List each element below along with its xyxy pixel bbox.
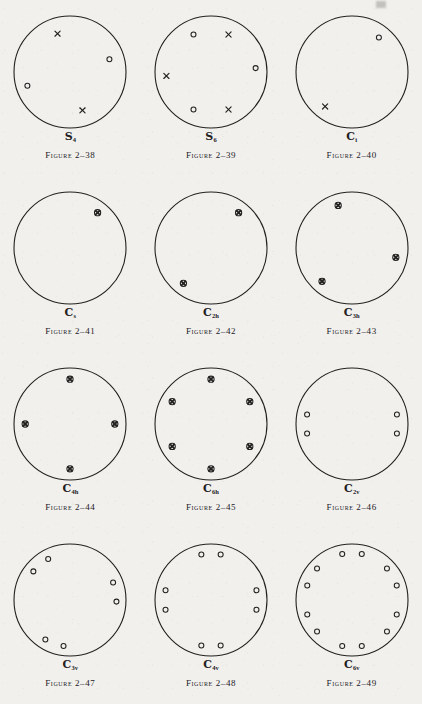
point-group-symbol-base: C: [344, 658, 353, 671]
projection-boundary-circle: [296, 544, 408, 656]
point-group-symbol-subscript: 3v: [72, 664, 79, 671]
stereogram-projection-fig-2-44: [8, 362, 132, 486]
figure-cell-fig-2-38: S4Figure 2–38: [0, 0, 141, 176]
stereogram-point-circled-cross: [95, 210, 101, 216]
stereogram-point-cross: [226, 107, 231, 112]
stereogram-point-circled-cross: [335, 202, 341, 208]
projection-boundary-circle: [14, 192, 126, 304]
point-group-symbol-subscript: i: [355, 136, 357, 143]
projection-boundary-circle: [14, 544, 126, 656]
stereogram-projection-fig-2-39: [149, 10, 273, 134]
stereogram-point-circle: [304, 412, 309, 417]
point-group-symbol-base: C: [203, 658, 212, 671]
projection-boundary-circle: [296, 192, 408, 304]
point-group-symbol-subscript: 3h: [353, 312, 360, 319]
stereogram-point-circled-cross: [112, 421, 118, 427]
projection-boundary-circle: [155, 16, 267, 128]
stereogram-projection-fig-2-49: [290, 538, 414, 662]
point-group-symbol-base: C: [203, 482, 212, 495]
point-group-symbol-subscript: 2v: [353, 488, 360, 495]
figure-cell-fig-2-40: CiFigure 2–40: [281, 0, 422, 176]
point-group-symbol-base: C: [63, 658, 72, 671]
stereogram-point-circle: [376, 35, 381, 40]
stereogram-point-circled-cross: [392, 254, 398, 260]
stereogram-figure-grid: S4Figure 2–38S6Figure 2–39CiFigure 2–40C…: [0, 0, 422, 704]
point-group-symbol-base: C: [203, 306, 212, 319]
stereogram-projection-fig-2-46: [290, 362, 414, 486]
stereogram-point-circled-cross: [67, 376, 73, 382]
stereogram-point-circled-cross: [180, 280, 186, 286]
stereogram-point-circle: [384, 566, 389, 571]
point-group-symbol: Cs: [65, 307, 77, 320]
point-group-symbol-base: C: [346, 130, 355, 143]
figure-caption: Figure 2–43: [327, 326, 377, 336]
figure-cell-fig-2-39: S6Figure 2–39: [141, 0, 282, 176]
projection-boundary-circle: [155, 544, 267, 656]
point-group-symbol-subscript: 2h: [212, 312, 219, 319]
stereogram-projection-fig-2-38: [8, 10, 132, 134]
figure-caption: Figure 2–39: [186, 150, 236, 160]
stereogram-point-circle: [254, 588, 259, 593]
point-group-symbol: S4: [65, 131, 76, 144]
stereogram-point-circle: [46, 556, 51, 561]
figure-cell-fig-2-49: C6vFigure 2–49: [281, 528, 422, 704]
point-group-symbol-base: S: [65, 130, 73, 143]
stereogram-projection-fig-2-47: [8, 538, 132, 662]
point-group-symbol: C6h: [203, 483, 219, 496]
stereogram-point-circle: [253, 66, 258, 71]
stereogram-point-cross: [226, 32, 231, 37]
point-group-symbol: C3v: [63, 659, 78, 672]
figure-cell-fig-2-43: C3hFigure 2–43: [281, 176, 422, 352]
stereogram-point-circle: [31, 569, 36, 574]
stereogram-point-circle: [254, 607, 259, 612]
point-group-symbol-subscript: 4h: [71, 488, 78, 495]
point-group-symbol-subscript: 6: [213, 136, 216, 143]
stereogram-point-circled-cross: [67, 466, 73, 472]
point-group-symbol-subscript: 6v: [353, 664, 360, 671]
stereogram-point-circle: [191, 107, 196, 112]
point-group-symbol-subscript: 6h: [212, 488, 219, 495]
figure-cell-fig-2-41: CsFigure 2–41: [0, 176, 141, 352]
stereogram-point-cross: [80, 108, 85, 113]
point-group-symbol-base: C: [344, 306, 353, 319]
stereogram-point-circle: [114, 599, 119, 604]
point-group-symbol-base: C: [344, 482, 353, 495]
stereogram-point-circle: [61, 644, 66, 649]
stereogram-point-circled-cross: [169, 443, 175, 449]
point-group-symbol: C6v: [344, 659, 359, 672]
point-group-symbol: C2v: [344, 483, 359, 496]
stereogram-point-circle: [199, 643, 204, 648]
stereogram-point-circled-cross: [235, 210, 241, 216]
figure-cell-fig-2-45: C6hFigure 2–45: [141, 352, 282, 528]
figure-caption: Figure 2–42: [186, 326, 236, 336]
stereogram-point-circled-cross: [247, 399, 253, 405]
stereogram-projection-fig-2-40: [290, 10, 414, 134]
stereogram-point-circle: [199, 552, 204, 557]
stereogram-point-circled-cross: [208, 466, 214, 472]
point-group-symbol: C4h: [62, 483, 78, 496]
point-group-symbol-subscript: s: [74, 312, 77, 319]
stereogram-projection-fig-2-41: [8, 186, 132, 310]
stereogram-point-circle: [359, 644, 364, 649]
point-group-symbol-base: C: [65, 306, 74, 319]
figure-cell-fig-2-47: C3vFigure 2–47: [0, 528, 141, 704]
stereogram-point-circle: [304, 612, 309, 617]
stereogram-point-cross: [164, 73, 169, 78]
stereogram-point-circle: [394, 412, 399, 417]
stereogram-point-circle: [163, 607, 168, 612]
point-group-symbol-subscript: 4v: [212, 664, 219, 671]
stereogram-point-circle: [218, 643, 223, 648]
stereogram-point-circle: [339, 551, 344, 556]
stereogram-point-circled-cross: [208, 376, 214, 382]
stereogram-point-circle: [191, 32, 196, 37]
stereogram-projection-fig-2-45: [149, 362, 273, 486]
projection-boundary-circle: [296, 16, 408, 128]
point-group-symbol: C2h: [203, 307, 219, 320]
stereogram-point-circle: [394, 612, 399, 617]
projection-boundary-circle: [155, 192, 267, 304]
point-group-symbol: C3h: [344, 307, 360, 320]
projection-boundary-circle: [14, 368, 126, 480]
stereogram-point-circled-cross: [247, 443, 253, 449]
stereogram-point-circled-cross: [169, 399, 175, 405]
stereogram-point-cross: [322, 104, 327, 109]
